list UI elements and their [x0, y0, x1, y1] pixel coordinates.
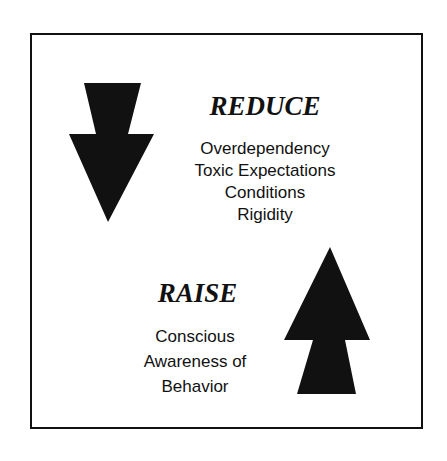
reduce-item: Rigidity — [170, 204, 360, 226]
raise-heading: RAISE — [140, 278, 255, 309]
raise-item: Awareness of — [120, 349, 270, 374]
raise-item: Behavior — [120, 374, 270, 399]
reduce-item: Toxic Expectations — [170, 160, 360, 182]
up-arrow-icon — [284, 247, 370, 394]
reduce-list: Overdependency Toxic Expectations Condit… — [170, 138, 360, 226]
down-arrow-icon — [69, 83, 154, 222]
raise-item: Conscious — [120, 324, 270, 349]
raise-list: Conscious Awareness of Behavior — [120, 324, 270, 399]
reduce-item: Overdependency — [170, 138, 360, 160]
reduce-heading: REDUCE — [200, 91, 330, 122]
reduce-item: Conditions — [170, 182, 360, 204]
